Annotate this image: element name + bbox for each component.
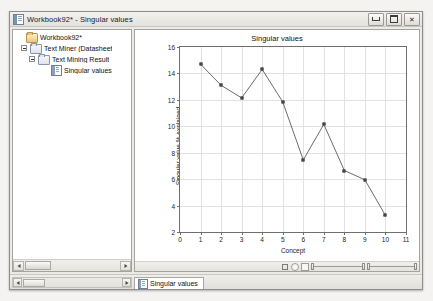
data-point[interactable] (220, 84, 223, 87)
chart-title: Singular values (135, 34, 419, 43)
x-axis-tick (303, 232, 304, 235)
zoom-icon[interactable] (281, 263, 289, 271)
x-axis-tick-label: 6 (301, 236, 305, 243)
scroll-right-arrow-icon[interactable] (120, 261, 131, 271)
tree-node-workbook[interactable]: Workbook92* (15, 32, 131, 43)
tree-node-label: Singular values (64, 67, 112, 74)
tab-singular-values[interactable]: Singular values (134, 277, 204, 289)
project-tree[interactable]: Workbook92* Text Miner (Datasheet Text M… (13, 30, 131, 259)
y-axis-tick (177, 232, 180, 233)
minimize-button[interactable] (368, 13, 384, 26)
workbook-horizontal-scrollbar[interactable] (12, 277, 132, 288)
x-axis-tick (365, 232, 366, 235)
folder-icon (26, 33, 38, 43)
tree-expander (41, 66, 50, 75)
tree-node-label: Text Mining Result (52, 56, 109, 63)
data-point[interactable] (240, 96, 243, 99)
x-axis-tick-label: 9 (363, 236, 367, 243)
maximize-button[interactable] (386, 13, 402, 26)
y-axis-tick-label: 12 (168, 96, 175, 103)
tree-expander-collapse-icon[interactable] (20, 44, 29, 53)
data-point[interactable] (199, 63, 202, 66)
tree-node-text-mining-result[interactable]: Text Mining Result (15, 54, 131, 65)
vertical-scroll-slider[interactable] (367, 263, 417, 271)
y-axis-tick-label: 6 (171, 176, 175, 183)
workbook-icon (13, 14, 24, 25)
y-axis-tick-label: 16 (168, 44, 175, 51)
horizontal-scroll-slider[interactable] (311, 263, 365, 271)
document-tabs: Singular values (134, 276, 204, 289)
tab-label: Singular values (150, 280, 198, 287)
y-axis-tick-label: 10 (168, 123, 175, 130)
close-button[interactable]: ✕ (404, 13, 420, 26)
window-controls: ✕ (368, 13, 420, 26)
y-axis-tick-label: 4 (171, 202, 175, 209)
y-axis-tick-label: 8 (171, 149, 175, 156)
x-axis-tick (242, 232, 243, 235)
scroll-thumb[interactable] (25, 261, 51, 270)
chart-panel: Singular values Singular value % explain… (134, 29, 420, 272)
x-axis-tick-label: 10 (382, 236, 389, 243)
scroll-track[interactable] (51, 260, 120, 271)
y-axis-tick-label: 14 (168, 70, 175, 77)
x-axis-tick (283, 232, 284, 235)
series-line (180, 47, 406, 232)
report-icon (51, 65, 62, 76)
x-axis-tick (324, 232, 325, 235)
x-axis-tick (180, 232, 181, 235)
grid-icon[interactable] (301, 263, 309, 271)
application-window: Workbook92* - Singular values ✕ Workbook… (9, 11, 423, 290)
x-axis-tick (262, 232, 263, 235)
scroll-left-arrow-icon[interactable] (13, 261, 24, 271)
folder-icon (38, 55, 50, 65)
scroll-right-arrow-icon[interactable] (122, 278, 131, 287)
x-axis-label: Concept (179, 247, 407, 254)
folder-icon (30, 44, 42, 54)
tree-node-label: Text Miner (Datasheet (44, 45, 112, 52)
close-icon: ✕ (409, 16, 416, 23)
data-point[interactable] (322, 123, 325, 126)
x-axis-tick-label: 1 (199, 236, 203, 243)
data-point[interactable] (363, 178, 366, 181)
plot-frame: 01234567891011246810121416 (179, 46, 407, 233)
chart-toolbar[interactable] (135, 261, 419, 271)
window-body: Workbook92* Text Miner (Datasheet Text M… (10, 27, 422, 274)
tree-node-label: Workbook92* (40, 34, 82, 41)
scroll-thumb[interactable] (23, 279, 45, 287)
x-axis-tick (344, 232, 345, 235)
tree-expander (16, 33, 25, 42)
x-axis-tick-label: 8 (343, 236, 347, 243)
data-point[interactable] (302, 158, 305, 161)
data-point[interactable] (261, 68, 264, 71)
data-point[interactable] (281, 100, 284, 103)
x-axis-tick-label: 0 (178, 236, 182, 243)
x-axis-tick (201, 232, 202, 235)
data-point[interactable] (384, 214, 387, 217)
tree-expander-collapse-icon[interactable] (28, 55, 37, 64)
x-axis-tick-label: 4 (260, 236, 264, 243)
x-axis-tick (385, 232, 386, 235)
status-bar: Singular values (10, 274, 422, 289)
x-axis-tick-label: 2 (219, 236, 223, 243)
x-axis-tick-label: 5 (281, 236, 285, 243)
y-axis-tick-label: 2 (171, 229, 175, 236)
chart-canvas[interactable]: Singular values Singular value % explain… (135, 30, 419, 261)
tree-node-singular-values[interactable]: Singular values (15, 65, 131, 76)
tree-horizontal-scrollbar[interactable] (13, 259, 131, 271)
x-axis-tick-label: 3 (240, 236, 244, 243)
report-icon (138, 279, 148, 289)
tree-node-text-miner[interactable]: Text Miner (Datasheet (15, 43, 131, 54)
x-axis-tick (406, 232, 407, 235)
window-title: Workbook92* - Singular values (27, 15, 368, 24)
scroll-left-arrow-icon[interactable] (13, 278, 22, 287)
data-point[interactable] (343, 169, 346, 172)
window-title-bar[interactable]: Workbook92* - Singular values ✕ (10, 12, 422, 27)
point-icon[interactable] (291, 263, 299, 271)
x-axis-tick-label: 11 (403, 236, 410, 243)
x-axis-tick (221, 232, 222, 235)
project-tree-panel: Workbook92* Text Miner (Datasheet Text M… (12, 29, 132, 272)
x-axis-tick-label: 7 (322, 236, 326, 243)
